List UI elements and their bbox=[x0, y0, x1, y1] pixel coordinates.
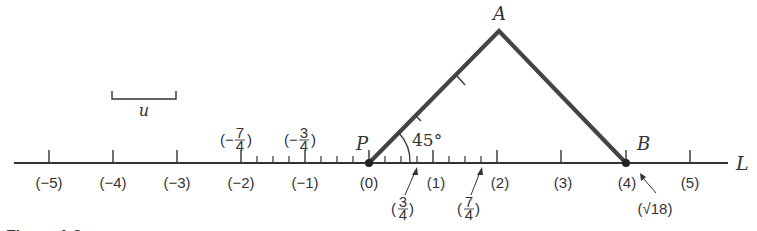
figure-caption: Figure 1.8 bbox=[6, 228, 82, 231]
svg-text:u: u bbox=[139, 101, 149, 120]
svg-text:(4): (4) bbox=[618, 174, 636, 191]
fraction-label-neg-7-4: (− 7 4 ) bbox=[220, 124, 252, 154]
svg-text:45°: 45° bbox=[412, 130, 442, 150]
svg-text:(: ( bbox=[457, 200, 462, 217]
svg-text:(0): (0) bbox=[360, 174, 378, 191]
integer-labels: (−5) (−4) (−3) (−2) (−1) (0) (1) (2) (3)… bbox=[35, 174, 699, 191]
point-a-label: A bbox=[491, 3, 506, 24]
point-p bbox=[365, 159, 373, 167]
fraction-label-7-4: ( 7 4 ) bbox=[457, 167, 483, 223]
fraction-label-neg-3-4: (− 3 4 ) bbox=[284, 124, 316, 154]
triangle-pab: 45° bbox=[369, 31, 626, 163]
svg-text:(: ( bbox=[391, 200, 396, 217]
svg-text:(−4): (−4) bbox=[99, 174, 126, 191]
svg-text:(3): (3) bbox=[554, 174, 572, 191]
point-b-label: B bbox=[636, 133, 650, 154]
svg-text:(−3): (−3) bbox=[163, 174, 190, 191]
sqrt18-annotation: (√18) bbox=[638, 173, 673, 217]
svg-text:): ) bbox=[247, 131, 252, 148]
unit-bracket: u bbox=[112, 91, 176, 120]
svg-text:(−5): (−5) bbox=[35, 174, 62, 191]
svg-text:4: 4 bbox=[465, 206, 473, 223]
svg-text:): ) bbox=[311, 131, 316, 148]
hash-mark bbox=[416, 116, 421, 121]
line-label: L bbox=[735, 152, 749, 174]
svg-text:4: 4 bbox=[236, 137, 244, 154]
svg-text:(−2): (−2) bbox=[227, 174, 254, 191]
svg-text:4: 4 bbox=[300, 137, 308, 154]
svg-text:(1): (1) bbox=[427, 174, 445, 191]
svg-text:(−1): (−1) bbox=[291, 174, 318, 191]
hash-mark bbox=[457, 76, 465, 85]
point-b bbox=[622, 159, 630, 167]
svg-text:4: 4 bbox=[399, 206, 407, 223]
svg-text:(−: (− bbox=[284, 131, 298, 148]
svg-text:(√18): (√18) bbox=[638, 200, 673, 217]
fraction-label-3-4: ( 3 4 ) bbox=[391, 167, 418, 223]
svg-text:): ) bbox=[409, 200, 414, 217]
svg-text:(2): (2) bbox=[491, 174, 509, 191]
svg-text:): ) bbox=[475, 200, 480, 217]
point-p-label: P bbox=[355, 133, 369, 154]
svg-text:(5): (5) bbox=[681, 174, 699, 191]
number-line-diagram: L (−5) (−4) (−3) (−2) (−1) (0) bbox=[0, 0, 757, 231]
svg-text:(−: (− bbox=[220, 131, 234, 148]
